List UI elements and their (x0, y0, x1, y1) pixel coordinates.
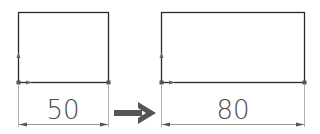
endpoint-marker[interactable] (160, 81, 164, 85)
x-axis-arrow-icon (169, 81, 175, 85)
sketch-diagram: 50 80 (0, 0, 320, 134)
dimension-arrowhead-icon (19, 123, 27, 127)
y-axis-arrow-icon (160, 52, 164, 58)
endpoint-marker[interactable] (17, 81, 21, 85)
left-sketch: 50 (17, 13, 111, 128)
dimension-arrowhead-icon (100, 123, 108, 127)
dimension-value[interactable]: 50 (46, 95, 79, 125)
right-rectangle[interactable] (162, 13, 305, 83)
right-arrow-icon (114, 102, 156, 124)
endpoint-marker[interactable] (303, 81, 307, 85)
y-axis-arrow-icon (17, 52, 21, 58)
dimension-arrowhead-icon (162, 123, 170, 127)
dimension-arrowhead-icon (296, 123, 304, 127)
dimension-value[interactable]: 80 (216, 95, 249, 125)
endpoint-marker[interactable] (107, 81, 111, 85)
left-rectangle[interactable] (19, 13, 109, 83)
x-axis-arrow-icon (26, 81, 32, 85)
right-sketch: 80 (160, 13, 307, 128)
